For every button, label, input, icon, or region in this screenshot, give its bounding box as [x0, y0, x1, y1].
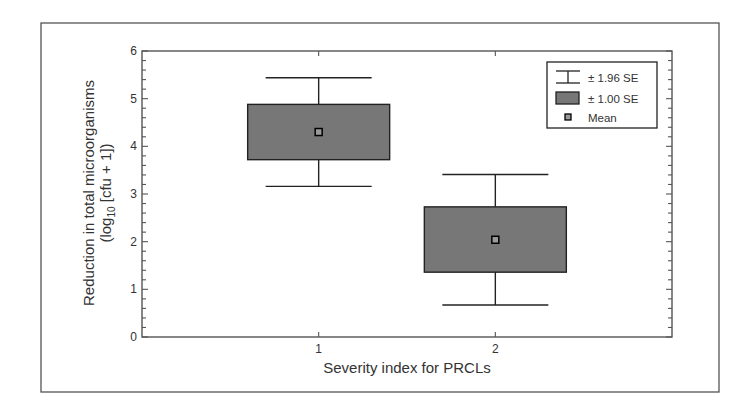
legend-label: Mean [588, 112, 617, 124]
x-tick-label: 2 [492, 342, 499, 356]
legend-label: ± 1.00 SE [588, 93, 639, 105]
chart-canvas: 012345612 ± 1.96 SE± 1.00 SEMean Severit… [0, 0, 749, 408]
mean-marker [315, 129, 322, 136]
mean-icon [565, 114, 571, 120]
x-tick-label: 1 [315, 342, 322, 356]
mean-marker [492, 236, 499, 243]
y-tick-label: 2 [130, 235, 137, 249]
x-axis-label: Severity index for PRCLs [323, 359, 491, 376]
box-icon [556, 92, 579, 104]
y-tick-label: 3 [130, 187, 137, 201]
legend-item-whisker: ± 1.96 SE [556, 71, 639, 84]
y-tick-label: 4 [130, 139, 137, 153]
y-tick-label: 5 [130, 92, 137, 106]
y-tick-label: 0 [130, 330, 137, 344]
y-tick-label: 6 [130, 44, 137, 58]
y-tick-label: 1 [130, 282, 137, 296]
chart-figure: 012345612 ± 1.96 SE± 1.00 SEMean Severit… [0, 0, 749, 408]
legend: ± 1.96 SE± 1.00 SEMean [547, 62, 657, 128]
legend-label: ± 1.96 SE [588, 72, 639, 84]
legend-item-box: ± 1.00 SE [556, 92, 639, 105]
y-axis-label-line1: Reduction in total microorganisms [80, 80, 97, 306]
